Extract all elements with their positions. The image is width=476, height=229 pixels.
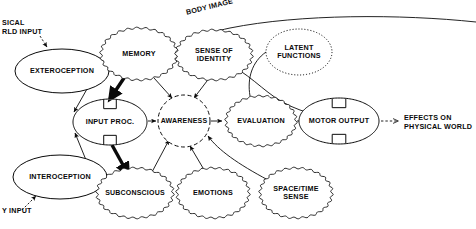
edge-world-input-to-exteroception — [40, 36, 47, 47]
node-outline-awareness — [158, 95, 210, 147]
node-latent-functions[interactable] — [266, 29, 332, 75]
node-sense-of-identity[interactable] — [175, 29, 254, 81]
edge-memory-to-input-proc — [110, 78, 124, 99]
node-outline-emotions — [176, 167, 250, 219]
node-outline-subconscious — [96, 167, 175, 219]
label-effects-on-physical-world: EFFECTS ON PHYSICAL WORLD — [404, 113, 472, 131]
node-input-proc[interactable] — [73, 99, 147, 145]
diagram-canvas: EXTEROCEPTIONINTEROCEPTIONMEMORYSENSE OF… — [0, 0, 476, 229]
node-outline-interoception — [13, 155, 107, 199]
edge-emotions-to-awareness — [190, 146, 203, 168]
node-outline-motor-output — [299, 98, 379, 144]
node-awareness[interactable] — [158, 95, 210, 147]
edge-sense-of-identity-to-awareness — [194, 81, 207, 98]
node-outline-sense-of-identity — [175, 29, 254, 81]
node-emotions[interactable] — [176, 167, 250, 219]
node-outline-memory — [100, 27, 179, 81]
edge-memory-to-awareness — [154, 78, 172, 98]
node-interoception[interactable] — [13, 155, 107, 199]
label-physical-world-input: SICAL RLD INPUT — [2, 18, 42, 36]
node-outline-evaluation — [225, 95, 297, 147]
node-outline-exteroception — [15, 49, 109, 93]
node-layer — [13, 27, 379, 219]
node-outline-latent-functions — [266, 29, 332, 75]
node-exteroception[interactable] — [15, 49, 109, 93]
edge-subconscious-to-awareness — [152, 140, 169, 172]
node-evaluation[interactable] — [225, 95, 297, 147]
node-space-time-sense[interactable] — [259, 167, 333, 219]
node-subconscious[interactable] — [96, 167, 175, 219]
edge-latent-functions-curve — [249, 52, 266, 96]
node-motor-output[interactable] — [299, 98, 379, 144]
label-body-input: Y INPUT — [2, 206, 32, 215]
node-outline-input-proc — [73, 99, 147, 145]
node-memory[interactable] — [100, 27, 179, 81]
node-outline-space-time-sense — [259, 167, 333, 219]
